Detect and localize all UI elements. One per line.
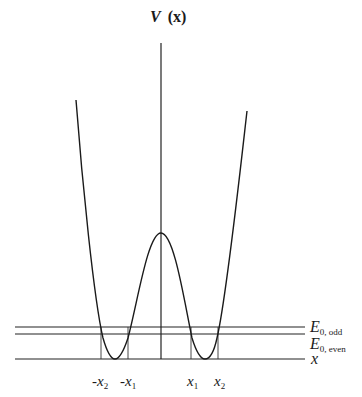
svg-text:V (x): V (x) [150, 8, 186, 26]
v-axis-label-arg: (x) [168, 8, 187, 26]
turning-label-x1: x1 [186, 373, 198, 391]
double-well-diagram: V (x) E0, odd E0, even x -x2 -x1 x1 x2 [0, 0, 362, 397]
v-axis-label-main: V [150, 8, 162, 25]
turning-label-x2: x2 [213, 373, 225, 391]
x-axis-label: x [310, 350, 318, 367]
turning-label-neg-x2: -x2 [92, 373, 108, 391]
turning-label-neg-x1: -x1 [120, 373, 136, 391]
